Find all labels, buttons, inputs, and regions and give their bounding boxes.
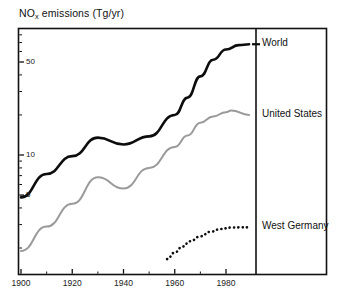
- chart-figure: NOx emissions (Tg/yr) 50105 190019201940…: [0, 0, 339, 305]
- x-axis-tick-label: 1900: [1, 278, 41, 288]
- y-axis-tick-label: 50: [26, 57, 35, 66]
- x-axis-tick-label: 1920: [52, 278, 92, 288]
- chart-title-main: NO: [19, 7, 35, 19]
- chart-title-subscript: x: [35, 12, 39, 21]
- chart-plot-area: [0, 0, 339, 305]
- y-axis-tick-label: 5: [26, 190, 30, 199]
- y-axis-tick-label: 10: [26, 150, 35, 159]
- x-axis-tick-label: 1940: [104, 278, 144, 288]
- legend-label-west-germany: West Germany: [262, 220, 329, 231]
- legend-label-world: World: [262, 37, 288, 48]
- chart-title-rest: emissions (Tg/yr): [39, 7, 124, 19]
- legend-label-united-states: United States: [262, 108, 322, 119]
- plot-frame: [19, 29, 327, 275]
- x-axis-tick-label: 1960: [155, 278, 195, 288]
- chart-title: NOx emissions (Tg/yr): [19, 7, 124, 19]
- x-axis-tick-label: 1980: [206, 278, 246, 288]
